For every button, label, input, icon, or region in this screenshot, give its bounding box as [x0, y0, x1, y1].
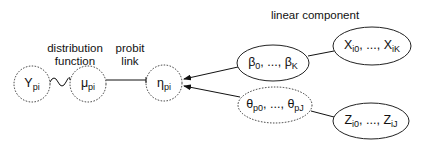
node-y-label: Ypi — [24, 76, 39, 92]
node-eta-label: ηpi — [157, 76, 171, 92]
linear-component-label: linear component — [255, 9, 375, 22]
line-z-to-theta — [311, 111, 334, 117]
label-linear-component: linear component — [271, 9, 359, 21]
distribution-wave-connector — [50, 77, 70, 86]
arrow-theta-to-eta — [184, 86, 240, 97]
node-x-label: Xi0, ..., XiK — [344, 38, 400, 54]
node-beta-label: β0, ..., βK — [248, 55, 298, 71]
line-x-to-beta — [308, 51, 334, 56]
node-theta-label: θp0, ..., θpJ — [246, 97, 304, 113]
probit-link-label: probit link — [105, 42, 155, 68]
label-link: link — [105, 55, 155, 68]
label-probit: probit — [105, 42, 155, 55]
arrow-beta-to-eta — [184, 67, 238, 79]
node-mu-label: μpi — [81, 76, 95, 92]
node-z-label: Zi0, ..., ZiJ — [344, 113, 397, 129]
